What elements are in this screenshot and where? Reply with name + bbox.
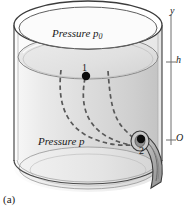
tank-floor [19,147,157,189]
point-1-label: 1 [82,63,87,73]
pressure-top-subscript: 0 [99,32,103,41]
y-axis [166,14,176,145]
point-1-marker [82,72,90,80]
origin-o-label: O [176,133,183,143]
pressure-top-text: Pressure p [52,27,99,39]
tank-top-rim [14,1,162,49]
pressure-bottom-label: Pressure p [38,136,85,147]
figure-caption: (a) [3,194,15,205]
point-2-marker [137,135,145,143]
point-2-label: 2 [139,146,144,156]
pressure-top-label: Pressure p0 [52,28,103,41]
height-h-label: h [176,55,181,65]
y-axis-label: y [170,6,174,16]
